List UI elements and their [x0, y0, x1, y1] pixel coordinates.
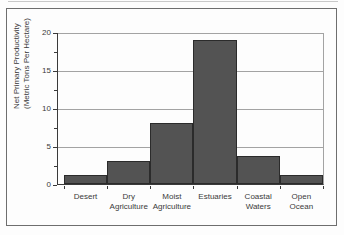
figure-canvas: Net Primary Productivity (Metric Tons Pe…: [0, 0, 344, 235]
y-minor-tick-2.5: [54, 166, 57, 167]
y-minor-tick-17.5: [54, 52, 57, 53]
gridline-y-15: [58, 71, 323, 72]
y-minor-tick-7.5: [54, 128, 57, 129]
y-tick-label-5: 5: [33, 143, 51, 151]
x-boundary-tick-6: [323, 186, 324, 189]
x-label-line: Open: [272, 192, 330, 202]
gridline-y-10: [58, 109, 323, 110]
x-boundary-tick-5: [280, 186, 281, 189]
bar-coastal-waters: [237, 156, 280, 184]
y-tick-label-0: 0: [33, 181, 51, 189]
gridline-y-20: [58, 33, 323, 34]
x-label-line: Agriculture: [143, 202, 201, 212]
y-tick-10: [53, 109, 57, 110]
bar-estuaries: [193, 40, 236, 184]
y-tick-label-10: 10: [33, 105, 51, 113]
x-boundary-tick-0: [64, 186, 65, 189]
x-label-line: Ocean: [272, 202, 330, 212]
plot-area: [57, 33, 324, 185]
x-label-open-ocean: OpenOcean: [272, 192, 330, 212]
y-tick-5: [53, 147, 57, 148]
x-boundary-tick-3: [193, 186, 194, 189]
bar-moist-agriculture: [150, 123, 193, 184]
x-boundary-tick-1: [107, 186, 108, 189]
bar-dry-agriculture: [107, 161, 150, 184]
y-tick-label-20: 20: [33, 29, 51, 37]
scan-artifact-line: [8, 1, 338, 2]
y-tick-0: [53, 185, 57, 186]
bar-open-ocean: [280, 175, 323, 184]
chart-frame: Net Primary Productivity (Metric Tons Pe…: [6, 8, 337, 226]
bar-desert: [64, 175, 107, 184]
y-minor-tick-12.5: [54, 90, 57, 91]
y-tick-label-15: 15: [33, 67, 51, 75]
x-boundary-tick-2: [150, 186, 151, 189]
y-tick-15: [53, 71, 57, 72]
y-tick-20: [53, 33, 57, 34]
x-boundary-tick-4: [237, 186, 238, 189]
